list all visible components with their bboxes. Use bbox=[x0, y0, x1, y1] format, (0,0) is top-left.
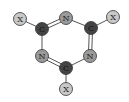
triazine-diagram: XCNCXNCXN bbox=[0, 0, 129, 102]
atom-c3: C bbox=[60, 62, 73, 75]
atom-label: N bbox=[63, 14, 70, 23]
atom-label: C bbox=[63, 64, 69, 73]
atom-n3: N bbox=[36, 50, 49, 63]
atom-n2: N bbox=[84, 50, 97, 63]
atom-x1: X bbox=[14, 13, 27, 26]
atom-c2: C bbox=[85, 22, 98, 35]
atom-label: X bbox=[110, 13, 116, 22]
atom-label: N bbox=[87, 52, 94, 61]
atom-label: C bbox=[88, 24, 94, 33]
atom-label: C bbox=[39, 25, 45, 34]
atom-label: N bbox=[39, 52, 46, 61]
atom-label: X bbox=[17, 15, 23, 24]
atom-c1: C bbox=[36, 23, 49, 36]
atom-x3: X bbox=[60, 83, 73, 96]
atom-x2: X bbox=[107, 11, 120, 24]
atom-n1: N bbox=[60, 12, 73, 25]
atom-label: X bbox=[63, 85, 69, 94]
bonds-layer bbox=[20, 17, 113, 89]
